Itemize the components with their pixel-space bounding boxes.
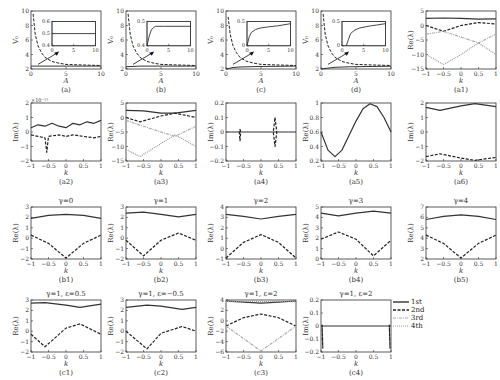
svg-text:1: 1 xyxy=(25,224,29,231)
svg-text:0: 0 xyxy=(354,353,358,360)
svg-text:2: 2 xyxy=(25,65,29,72)
svg-text:6: 6 xyxy=(315,36,319,43)
svg-text:0: 0 xyxy=(319,70,323,77)
svg-text:0.5: 0.5 xyxy=(79,260,89,267)
svg-text:1: 1 xyxy=(494,70,498,77)
svg-text:−2: −2 xyxy=(20,157,29,164)
svg-text:0.5: 0.5 xyxy=(237,18,245,24)
svg-text:1: 1 xyxy=(294,260,298,267)
svg-text:8: 8 xyxy=(25,22,29,29)
svg-text:k: k xyxy=(64,267,68,275)
svg-text:(b1): (b1) xyxy=(59,276,74,284)
legend-line-solid-icon xyxy=(393,299,409,305)
panel-c4: γ=1, ε=2−1−0.500.51−0.2−0.100.10.2kIm(λ)… xyxy=(305,288,395,380)
svg-text:3: 3 xyxy=(420,245,424,252)
svg-text:(a4): (a4) xyxy=(254,178,268,186)
svg-text:0.5: 0.5 xyxy=(474,260,484,267)
svg-text:1: 1 xyxy=(194,162,198,169)
svg-text:Re(λ): Re(λ) xyxy=(207,223,215,243)
plot-c: 0510246810051000.5AV₀(c) xyxy=(210,5,300,97)
svg-text:2: 2 xyxy=(25,306,29,313)
svg-text:0: 0 xyxy=(259,353,263,360)
svg-text:0: 0 xyxy=(259,162,263,169)
svg-text:0: 0 xyxy=(120,114,124,121)
plot-b4: γ=3−1−0.500.51012345kRe(λ)(b4) xyxy=(305,195,395,287)
svg-text:1: 1 xyxy=(494,162,498,169)
svg-text:0: 0 xyxy=(159,353,163,360)
svg-text:0: 0 xyxy=(120,327,124,334)
svg-text:0: 0 xyxy=(315,255,319,262)
plot-b1: γ=0−1−0.500.51−2−10123kRe(λ)(b1) xyxy=(15,195,105,287)
svg-text:Re(λ): Re(λ) xyxy=(12,316,20,336)
svg-text:Re(λ): Re(λ) xyxy=(407,30,415,50)
svg-text:k: k xyxy=(64,360,68,368)
panel-a: 051024681005100.40.50.6AV₀(a) xyxy=(15,5,105,97)
svg-text:7: 7 xyxy=(420,203,424,210)
svg-text:γ=1, ε=0.5: γ=1, ε=0.5 xyxy=(46,290,86,298)
svg-text:3: 3 xyxy=(25,296,29,303)
svg-text:0: 0 xyxy=(25,234,29,241)
svg-text:−10: −10 xyxy=(111,143,124,150)
svg-text:0.5: 0.5 xyxy=(369,260,379,267)
svg-text:k: k xyxy=(354,267,358,275)
svg-text:0.5: 0.5 xyxy=(274,353,284,360)
svg-text:0: 0 xyxy=(315,322,319,329)
panel-a6: −1−0.500.51−2−1012kIm(λ)(a6) xyxy=(410,97,500,189)
legend-label: 1st xyxy=(411,298,422,306)
svg-text:1: 1 xyxy=(420,114,424,121)
legend-item-1st: 1st xyxy=(393,298,424,306)
svg-text:8: 8 xyxy=(315,22,319,29)
svg-text:0.4: 0.4 xyxy=(137,42,145,48)
svg-text:10: 10 xyxy=(382,47,388,53)
svg-text:−0.5: −0.5 xyxy=(41,162,56,169)
svg-text:(c): (c) xyxy=(256,86,266,94)
svg-text:0.5: 0.5 xyxy=(79,353,89,360)
svg-text:Re(λ): Re(λ) xyxy=(207,316,215,336)
svg-text:1: 1 xyxy=(99,260,103,267)
svg-text:(a6): (a6) xyxy=(454,178,468,186)
svg-text:1: 1 xyxy=(389,353,393,360)
panel-b1: γ=0−1−0.500.51−2−10123kRe(λ)(b1) xyxy=(15,195,105,287)
svg-text:−15: −15 xyxy=(111,157,124,164)
svg-text:0.5: 0.5 xyxy=(274,162,284,169)
svg-text:k: k xyxy=(259,169,263,177)
svg-text:10: 10 xyxy=(21,7,29,14)
svg-text:10: 10 xyxy=(292,70,300,77)
legend: 1st 2nd 3rd 4th xyxy=(393,298,424,330)
svg-text:γ=4: γ=4 xyxy=(454,197,469,205)
panel-b4: γ=3−1−0.500.51012345kRe(λ)(b4) xyxy=(305,195,395,287)
svg-text:1: 1 xyxy=(315,245,319,252)
plot-a6: −1−0.500.51−2−1012kIm(λ)(a6) xyxy=(410,97,500,189)
plot-c2: γ=1, ε=−0.5−1−0.500.51−2−10123kRe(λ)(c2) xyxy=(110,288,200,380)
svg-text:Im(λ): Im(λ) xyxy=(207,122,215,142)
svg-text:k: k xyxy=(159,360,163,368)
svg-text:1: 1 xyxy=(389,162,393,169)
svg-text:Re(λ): Re(λ) xyxy=(407,223,415,243)
svg-text:(c1): (c1) xyxy=(59,369,73,377)
svg-text:(c2): (c2) xyxy=(154,369,168,377)
svg-text:−0.5: −0.5 xyxy=(236,162,251,169)
svg-text:0: 0 xyxy=(64,162,68,169)
panel-a3: −1−0.500.51−15−10−505kRe(λ)(a3) xyxy=(110,97,200,189)
svg-text:−5: −5 xyxy=(115,128,124,135)
svg-text:0: 0 xyxy=(159,260,163,267)
svg-text:5: 5 xyxy=(420,7,424,14)
panel-a4: −1−0.500.51−0.2−0.100.10.2kIm(λ)(a4) xyxy=(210,97,300,189)
svg-text:A: A xyxy=(157,77,163,85)
svg-text:10: 10 xyxy=(116,7,124,14)
svg-text:−5: −5 xyxy=(415,36,424,43)
svg-text:V₀: V₀ xyxy=(302,36,310,45)
svg-text:0: 0 xyxy=(354,260,358,267)
svg-text:8: 8 xyxy=(220,22,224,29)
svg-text:1: 1 xyxy=(99,162,103,169)
svg-text:0: 0 xyxy=(259,260,263,267)
svg-text:5: 5 xyxy=(420,224,424,231)
legend-line-dashdot-icon xyxy=(393,315,409,321)
panel-b2: γ=1−1−0.500.51−2−10123kRe(λ)(b2) xyxy=(110,195,200,287)
svg-text:0.1: 0.1 xyxy=(309,309,319,316)
panel-c1: γ=1, ε=0.5−1−0.500.51−2−10123kRe(λ)(c1) xyxy=(15,288,105,380)
plot-a2: −1−0.500.51−2−1012×10⁻¹³kIm(λ)(a2) xyxy=(15,97,105,189)
svg-text:0: 0 xyxy=(64,353,68,360)
svg-text:(b5): (b5) xyxy=(454,276,469,284)
legend-item-2nd: 2nd xyxy=(393,306,424,314)
